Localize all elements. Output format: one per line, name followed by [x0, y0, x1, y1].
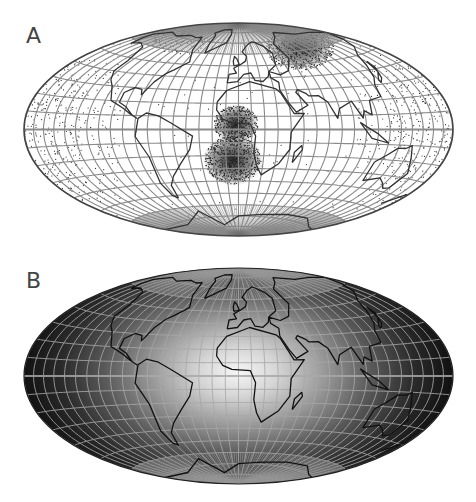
south-pole-convergence [224, 227, 252, 243]
map-b-content [0, 247, 476, 502]
map-panel-b [0, 247, 476, 502]
map-a-content [0, 0, 476, 250]
map-panel-a [0, 0, 476, 250]
